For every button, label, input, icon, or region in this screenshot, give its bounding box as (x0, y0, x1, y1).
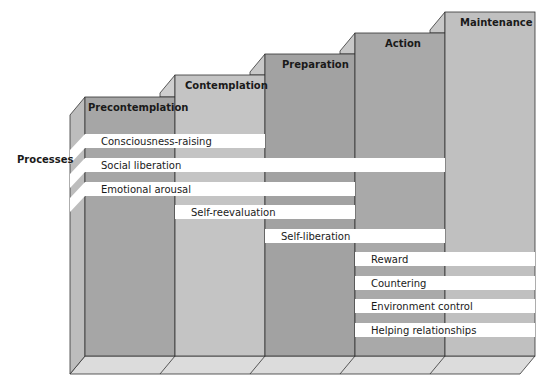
stage-label: Precontemplation (88, 102, 188, 113)
process-label: Self-reevaluation (191, 207, 276, 218)
stage-label: Contemplation (185, 80, 268, 91)
process-label: Environment control (371, 301, 473, 312)
process-label: Helping relationships (371, 325, 476, 336)
stage-label: Maintenance (460, 17, 533, 28)
floor (70, 356, 535, 374)
process-label: Self-liberation (281, 231, 350, 242)
stages-of-change-diagram: Precontemplation Contemplation Preparati… (0, 0, 545, 388)
stage-label: Action (385, 38, 421, 49)
process-label: Consciousness-raising (101, 136, 212, 147)
step-top-contemplation (160, 75, 175, 97)
step-top-action (340, 33, 355, 54)
stage-label: Preparation (282, 59, 349, 70)
processes-axis-label: Processes (17, 154, 74, 165)
process-label: Emotional arousal (101, 184, 191, 195)
process-label: Countering (371, 278, 426, 289)
process-label: Social liberation (101, 160, 181, 171)
step-top-maintenance (430, 12, 445, 33)
step-top-preparation (250, 54, 265, 75)
process-label: Reward (371, 254, 408, 265)
